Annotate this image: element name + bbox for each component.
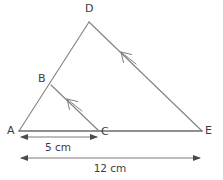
geometry-figure: A B C D E 5 cm 12 cm [0,0,223,180]
segment-BC-group [51,85,99,131]
arrow-mark-BC [67,99,82,111]
vertex-label-D: D [85,3,93,14]
dimension-label-12cm: 12 cm [88,163,132,174]
dimension-AE-line [20,155,201,161]
diagram-canvas [0,0,223,180]
dimension-AE-arrowhead-right [193,155,201,161]
dimension-AC-line [20,134,98,140]
segment-DE [89,22,202,131]
arrow-mark-DE [121,52,136,64]
segment-BC [51,85,99,131]
triangle-ADE [19,22,202,131]
dimension-label-5cm: 5 cm [38,142,78,153]
vertex-label-A: A [7,125,15,136]
segment-AD [19,22,89,131]
dimension-AC-arrowhead-left [20,134,28,140]
vertex-label-B: B [38,73,46,84]
vertex-label-C: C [101,126,109,137]
vertex-label-E: E [205,125,212,136]
dimension-AC-arrowhead-right [90,134,98,140]
dimension-AE-arrowhead-left [20,155,28,161]
